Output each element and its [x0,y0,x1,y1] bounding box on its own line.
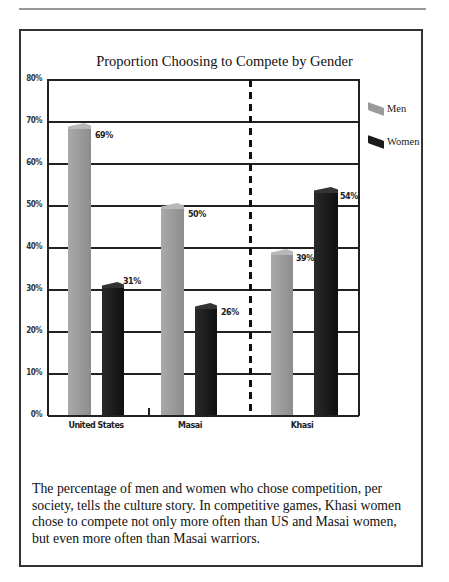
y-tick-60: 60% [20,158,42,167]
dashed-divider [249,80,252,416]
figure-caption: The percentage of men and women who chos… [32,481,417,547]
gridline [48,205,359,207]
bar-khasi-men [271,253,293,415]
bar-khasi-women [314,191,338,415]
legend-swatch-women-icon [368,135,384,149]
bar-us-women [102,286,124,415]
value-label-us-men: 69% [95,131,113,140]
bar-us-men [68,127,91,415]
x-label-khasi: Khasi [262,421,342,430]
value-label-masai-women: 26% [221,308,239,317]
y-tick-0: 0% [20,410,42,419]
y-tick-70: 70% [20,116,42,125]
legend-label-women: Women [387,136,419,147]
gridline [48,121,359,123]
y-axis [47,79,49,416]
value-label-masai-men: 50% [188,210,206,219]
legend-item-women: Women [368,136,419,147]
legend-swatch-men-icon [368,102,384,116]
category-tick [148,408,150,416]
x-axis [48,415,359,417]
value-label-khasi-men: 39% [296,254,314,263]
value-label-khasi-women: 54% [340,192,358,201]
bar-masai-men [161,207,184,415]
y-tick-80: 80% [20,74,42,83]
plot-right-border [358,79,360,416]
value-label-us-women: 31% [123,277,141,286]
y-tick-50: 50% [20,200,42,209]
legend-label-men: Men [387,103,406,114]
bar-masai-women [195,307,217,415]
gridline [48,79,359,81]
x-label-masai: Masai [150,421,230,430]
y-tick-20: 20% [20,326,42,335]
gridline [48,247,359,249]
x-label-united-states: United States [56,421,136,430]
gridline [48,163,359,165]
gridline [48,289,359,291]
y-tick-30: 30% [20,284,42,293]
y-tick-10: 10% [20,368,42,377]
y-tick-40: 40% [20,242,42,251]
legend-item-men: Men [368,103,406,114]
